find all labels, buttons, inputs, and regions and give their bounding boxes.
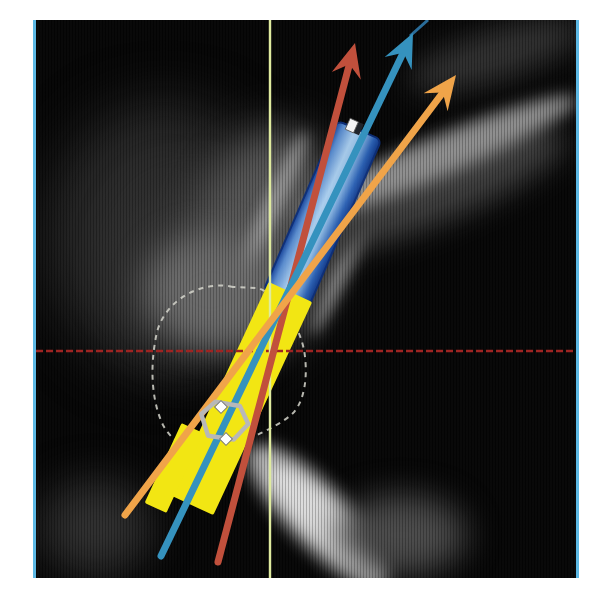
orange-arrow-shaft	[125, 91, 444, 515]
red-axis-arrow	[218, 43, 361, 562]
orange-axis-arrow	[125, 75, 456, 515]
ct-scan-image	[33, 20, 579, 578]
red-arrow-shaft	[218, 62, 350, 562]
